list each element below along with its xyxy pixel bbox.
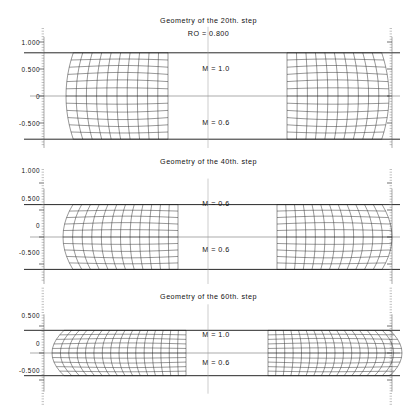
mesh-plot-step-20 xyxy=(0,0,417,148)
mesh-plot-step-40 xyxy=(0,148,417,284)
panel-step-20: Geometry of the 20th. step RO = 0.800 1.… xyxy=(0,0,417,148)
panel-step-40: Geometry of the 40th. step 1.000 0.500 0… xyxy=(0,148,417,284)
geometry-figure: Geometry of the 20th. step RO = 0.800 1.… xyxy=(0,0,417,408)
panel-step-60: Geometry of the 60th. step 0.500 0 -0.50… xyxy=(0,284,417,408)
mesh-plot-step-60 xyxy=(0,284,417,408)
